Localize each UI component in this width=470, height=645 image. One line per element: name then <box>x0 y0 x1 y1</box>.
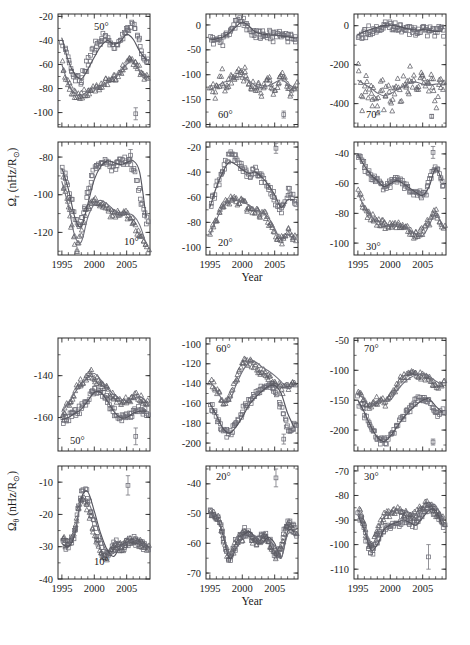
data-point-triangle <box>243 65 248 69</box>
x-tick-label: 2000 <box>232 259 253 270</box>
data-point-square <box>284 425 288 429</box>
y-tick-label: -140 <box>34 370 53 381</box>
data-point-square <box>110 169 114 173</box>
errorbar-r-50 <box>134 108 138 120</box>
y-tick-label: -100 <box>34 189 53 200</box>
panel-latitude-label-r-30: 30° <box>366 241 381 252</box>
y-tick-label: -80 <box>187 217 201 228</box>
y-tick-label: -60 <box>187 192 201 203</box>
data-point-triangle <box>286 225 291 229</box>
y-tick-label: -40 <box>335 148 349 159</box>
data-point-triangle <box>356 68 361 72</box>
panel-r-30: -40-60-80-10030° <box>330 142 448 255</box>
panel-latitude-label-r-50: 50° <box>94 21 109 32</box>
y-tick-label: -60 <box>335 178 349 189</box>
y-tick-label: 0 <box>196 20 201 31</box>
x-tick-label: 2005 <box>264 583 285 594</box>
y-tick-label: -100 <box>330 365 349 376</box>
data-point-triangle <box>213 96 218 100</box>
y-tick-label: -60 <box>39 59 53 70</box>
y-tick-label: -50 <box>187 44 201 55</box>
data-points-r-60 <box>207 16 299 100</box>
panel-latitude-label-t-10: 10° <box>94 556 109 567</box>
data-point-square <box>286 186 290 190</box>
data-point-triangle <box>243 69 248 73</box>
errorbar-t-50 <box>134 428 138 445</box>
data-point-triangle <box>366 95 371 99</box>
errorbar-t-70 <box>431 439 435 445</box>
panel-frame-r-30 <box>354 142 446 255</box>
y-tick-label: -40 <box>187 478 201 489</box>
data-points-r-70 <box>356 20 446 115</box>
y-tick-label: -70 <box>335 466 349 477</box>
y-tick-label: -50 <box>187 508 201 519</box>
data-points-r-30 <box>356 154 448 240</box>
errorbar-t-10 <box>126 476 130 495</box>
y-tick-label: -120 <box>182 358 201 369</box>
data-point-triangle <box>370 103 375 107</box>
x-tick-label: 1995 <box>347 583 368 594</box>
data-point-triangle <box>356 187 361 191</box>
x-tick-label: 1995 <box>199 259 220 270</box>
data-point-square <box>139 203 143 207</box>
y-tick-label: -80 <box>39 152 53 163</box>
panel-latitude-label-t-70: 70° <box>364 343 379 354</box>
panel-r-50: -20-40-60-80-10050° <box>34 11 151 127</box>
panel-t-10: -10-20-30-4010° <box>39 466 151 585</box>
data-point-square <box>74 79 78 83</box>
data-point-triangle <box>390 97 395 101</box>
y-tick-label: -80 <box>335 490 349 501</box>
panel-latitude-label-r-70: 70° <box>366 109 381 120</box>
panel-latitude-label-r-20: 20° <box>218 237 233 248</box>
data-point-square <box>80 489 84 493</box>
y-tick-label: -160 <box>34 412 53 423</box>
data-points-r-20 <box>208 150 299 246</box>
panel-t-30: -70-80-90-100-11030° <box>330 466 447 579</box>
data-points-t-50 <box>61 367 150 425</box>
x-tick-label: 2005 <box>412 259 433 270</box>
data-point-triangle <box>408 64 413 68</box>
data-point-square <box>89 180 93 184</box>
data-point-triangle <box>370 212 375 216</box>
y-tick-label: -120 <box>34 227 53 238</box>
data-points-t-70 <box>356 369 447 447</box>
data-point-triangle <box>220 66 225 70</box>
panel-t-20: -40-50-60-7020° <box>187 466 299 579</box>
x-tick-label: 2000 <box>84 259 105 270</box>
panel-t-50: -140-16050° <box>34 338 150 451</box>
panel-latitude-label-t-30: 30° <box>364 471 379 482</box>
x-tick-label: 2000 <box>84 583 105 594</box>
data-point-triangle <box>60 58 65 62</box>
errorbar-r-30 <box>431 146 435 158</box>
data-point-triangle <box>82 87 87 91</box>
errorbar-t-30 <box>426 545 430 570</box>
y-tick-label: -60 <box>187 538 201 549</box>
y-tick-label: -40 <box>187 167 201 178</box>
data-points-r-50 <box>60 20 151 100</box>
y-tick-label: -20 <box>39 11 53 22</box>
data-point-triangle <box>295 80 300 84</box>
panel-r-20: -20-40-60-80-10020° <box>182 142 299 255</box>
data-point-triangle <box>431 88 436 92</box>
y-axis-title-omega-theta: Ωθ (nHz/R⊙) <box>6 471 21 531</box>
y-tick-label: -20 <box>39 509 53 520</box>
data-point-square <box>428 402 432 406</box>
data-point-triangle <box>364 73 369 77</box>
y-tick-label: -50 <box>335 335 349 346</box>
panel-latitude-label-t-50: 50° <box>70 435 85 446</box>
data-point-triangle <box>374 394 379 398</box>
y-tick-label: -180 <box>182 418 201 429</box>
panel-r-60: 0-50-100-150-20060° <box>182 14 300 130</box>
data-point-square <box>286 424 290 428</box>
x-axis-title-group1: Year <box>241 595 262 607</box>
y-tick-label: -110 <box>330 564 349 575</box>
data-point-triangle <box>235 372 240 376</box>
data-point-triangle <box>369 91 374 95</box>
panel-t-70: -50-100-150-20070° <box>330 335 447 451</box>
y-tick-label: 0 <box>344 20 349 31</box>
data-point-square <box>212 42 216 46</box>
y-tick-label: -100 <box>182 339 201 350</box>
panel-latitude-label-t-20: 20° <box>216 471 231 482</box>
y-axis-title-omega-theta-text: Ωθ (nHz/R⊙) <box>6 471 21 531</box>
y-tick-label: -200 <box>330 59 349 70</box>
